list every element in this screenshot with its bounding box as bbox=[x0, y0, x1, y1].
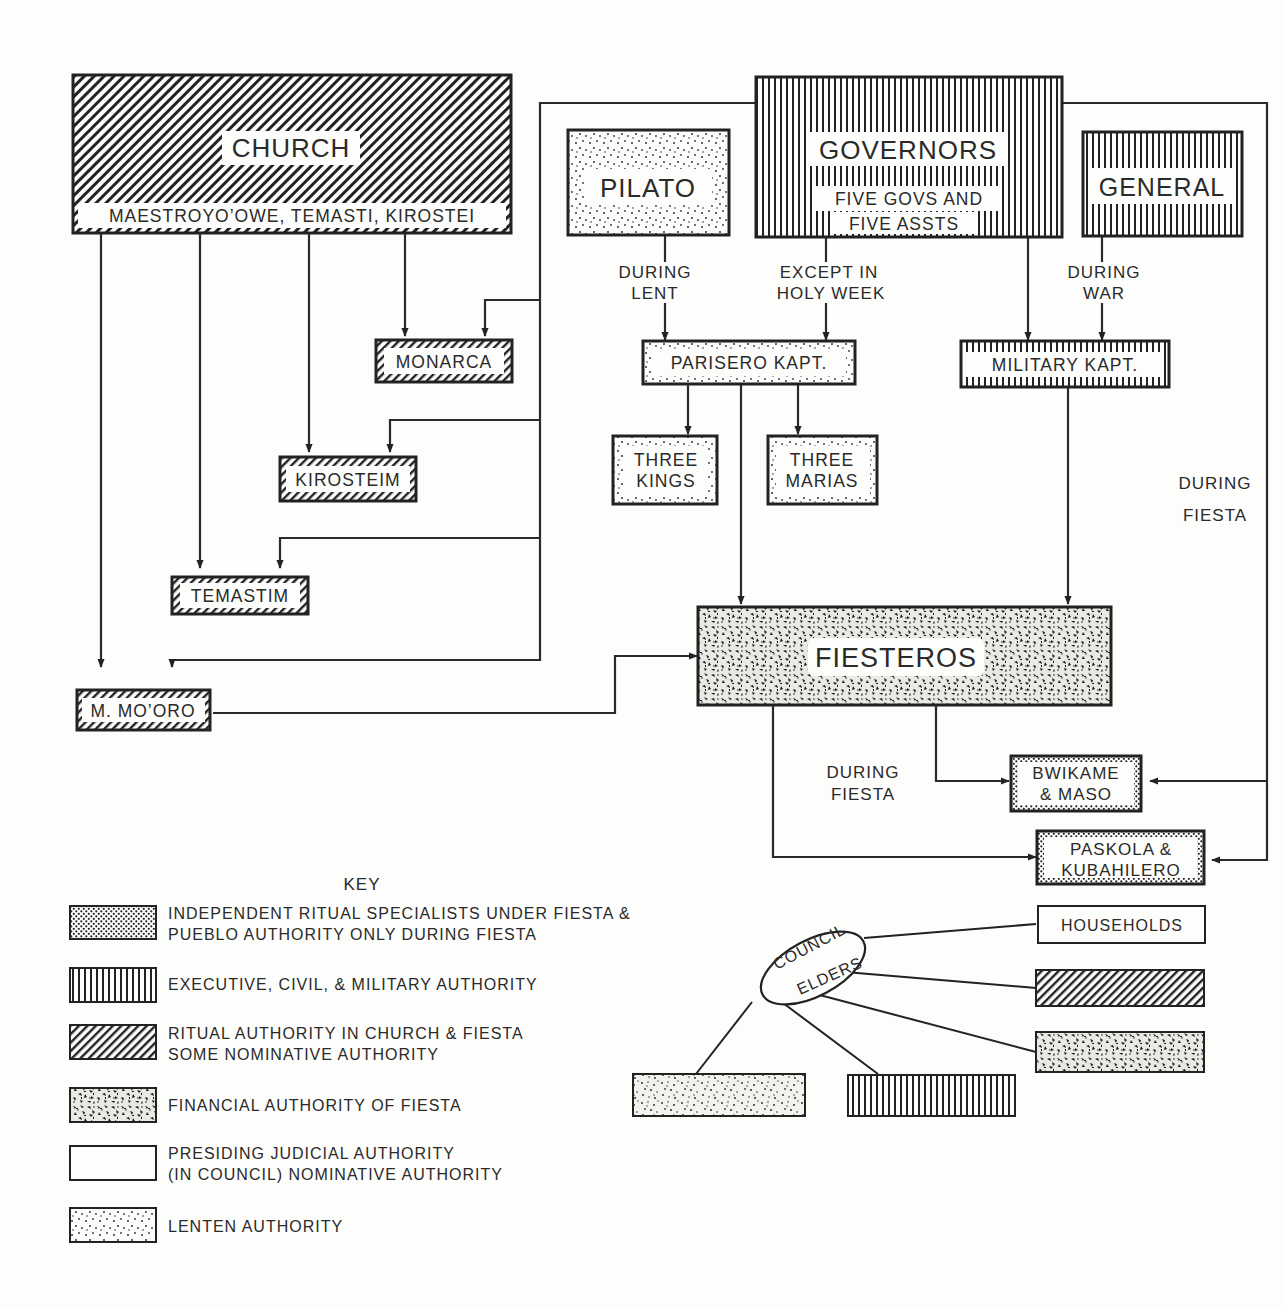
edge-label-during-fiesta-right: DURING FIESTA bbox=[1178, 474, 1251, 525]
governors-title: GOVERNORS bbox=[819, 135, 997, 165]
key-title: KEY bbox=[343, 875, 380, 894]
svg-text:FINANCIAL AUTHORITY OF FIESTA: FINANCIAL AUTHORITY OF FIESTA bbox=[168, 1097, 462, 1114]
svg-text:INDEPENDENT RITUAL SPECIALISTS: INDEPENDENT RITUAL SPECIALISTS UNDER FIE… bbox=[168, 905, 631, 922]
key-item-ritual-authority: RITUAL AUTHORITY IN CHURCH & FIESTA SOME… bbox=[70, 1025, 524, 1063]
edge-label-during-war: DURING WAR bbox=[1067, 263, 1140, 303]
svg-text:LENT: LENT bbox=[631, 284, 678, 303]
node-parisero-kapt[interactable]: PARISERO KAPT. bbox=[643, 341, 855, 384]
paskola-line2: KUBAHILERO bbox=[1061, 861, 1181, 880]
svg-text:DURING: DURING bbox=[1178, 474, 1251, 493]
svg-text:EXECUTIVE, CIVIL, & MILITARY A: EXECUTIVE, CIVIL, & MILITARY AUTHORITY bbox=[168, 976, 538, 993]
svg-text:RITUAL AUTHORITY IN CHURCH & F: RITUAL AUTHORITY IN CHURCH & FIESTA bbox=[168, 1025, 524, 1042]
council-financial-box[interactable] bbox=[1036, 1032, 1204, 1072]
svg-text:DURING: DURING bbox=[618, 263, 691, 282]
military-title: MILITARY KAPT. bbox=[992, 355, 1138, 375]
node-military-kapt[interactable]: MILITARY KAPT. bbox=[961, 341, 1169, 387]
key-item-lenten: LENTEN AUTHORITY bbox=[70, 1208, 343, 1242]
node-fiesteros[interactable]: FIESTEROS bbox=[698, 607, 1111, 705]
svg-text:FIESTA: FIESTA bbox=[1183, 506, 1247, 525]
svg-text:SOME NOMINATIVE AUTHORITY: SOME NOMINATIVE AUTHORITY bbox=[168, 1046, 439, 1063]
bwikame-line2: & MASO bbox=[1040, 785, 1112, 804]
households-box[interactable]: HOUSEHOLDS bbox=[1038, 906, 1205, 943]
svg-text:HOLY WEEK: HOLY WEEK bbox=[777, 284, 886, 303]
bwikame-line1: BWIKAME bbox=[1032, 764, 1119, 783]
svg-text:HOUSEHOLDS: HOUSEHOLDS bbox=[1061, 917, 1183, 934]
svg-text:DURING: DURING bbox=[1067, 263, 1140, 282]
node-paskola-kubahilero[interactable]: PASKOLA & KUBAHILERO bbox=[1037, 831, 1204, 884]
svg-text:WAR: WAR bbox=[1083, 284, 1125, 303]
m-mooro-title: M. MO’ORO bbox=[90, 701, 195, 721]
node-general[interactable]: GENERAL bbox=[1083, 132, 1242, 236]
monarca-title: MONARCA bbox=[396, 352, 492, 372]
church-subtitle: MAESTROYO’OWE, TEMASTI, KIROSTEI bbox=[109, 206, 475, 226]
key-item-executive: EXECUTIVE, CIVIL, & MILITARY AUTHORITY bbox=[70, 968, 538, 1002]
parisero-title: PARISERO KAPT. bbox=[671, 353, 828, 373]
svg-text:EXCEPT IN: EXCEPT IN bbox=[780, 263, 878, 282]
node-m-mooro[interactable]: M. MO’ORO bbox=[77, 690, 210, 730]
node-pilato[interactable]: PILATO bbox=[568, 130, 729, 235]
edge-label-except-holy-week: EXCEPT IN HOLY WEEK bbox=[777, 263, 886, 303]
svg-text:LENTEN AUTHORITY: LENTEN AUTHORITY bbox=[168, 1218, 343, 1235]
pilato-title: PILATO bbox=[600, 173, 696, 203]
council-lenten-box[interactable] bbox=[633, 1074, 805, 1116]
node-temastim[interactable]: TEMASTIM bbox=[172, 577, 308, 614]
council-executive-box[interactable] bbox=[848, 1075, 1015, 1116]
svg-text:PRESIDING JUDICIAL AUTHORITY: PRESIDING JUDICIAL AUTHORITY bbox=[168, 1145, 455, 1162]
key-item-independent-ritual: INDEPENDENT RITUAL SPECIALISTS UNDER FIE… bbox=[70, 905, 631, 943]
svg-text:PUEBLO AUTHORITY ONLY DURING F: PUEBLO AUTHORITY ONLY DURING FIESTA bbox=[168, 926, 537, 943]
key-item-financial: FINANCIAL AUTHORITY OF FIESTA bbox=[70, 1088, 462, 1122]
council-elders-group: COUNCIL ELDERS HOUSEHOLDS bbox=[633, 906, 1205, 1116]
key-legend: KEY INDEPENDENT RITUAL SPECIALISTS UNDER… bbox=[70, 875, 631, 1242]
temastim-title: TEMASTIM bbox=[191, 586, 289, 606]
kirosteim-title: KIROSTEIM bbox=[295, 470, 400, 490]
three-kings-line2: KINGS bbox=[636, 471, 695, 491]
governors-subtitle-2: FIVE ASSTS bbox=[849, 214, 959, 234]
svg-text:FIESTA: FIESTA bbox=[831, 785, 895, 804]
three-marias-line2: MARIAS bbox=[785, 471, 858, 491]
node-church[interactable]: CHURCH MAESTROYO’OWE, TEMASTI, KIROSTEI bbox=[73, 75, 511, 233]
general-title: GENERAL bbox=[1099, 173, 1225, 201]
svg-text:(IN COUNCIL) NOMINATIVE AUTHOR: (IN COUNCIL) NOMINATIVE AUTHORITY bbox=[168, 1166, 503, 1183]
node-monarca[interactable]: MONARCA bbox=[376, 340, 512, 382]
paskola-line1: PASKOLA & bbox=[1070, 840, 1172, 859]
three-marias-line1: THREE bbox=[790, 450, 854, 470]
key-item-judicial: PRESIDING JUDICIAL AUTHORITY (IN COUNCIL… bbox=[70, 1145, 503, 1183]
authority-diagram: CHURCH MAESTROYO’OWE, TEMASTI, KIROSTEI … bbox=[0, 0, 1285, 1307]
edge-label-during-fiesta-bottom: DURING FIESTA bbox=[826, 763, 899, 804]
node-three-kings[interactable]: THREE KINGS bbox=[613, 436, 717, 504]
governors-subtitle-1: FIVE GOVS AND bbox=[835, 189, 983, 209]
node-governors[interactable]: GOVERNORS FIVE GOVS AND FIVE ASSTS bbox=[756, 77, 1062, 237]
node-three-marias[interactable]: THREE MARIAS bbox=[768, 436, 877, 504]
node-bwikame-maso[interactable]: BWIKAME & MASO bbox=[1011, 756, 1141, 811]
edge-label-during-lent: DURING LENT bbox=[618, 263, 691, 303]
fiesteros-title: FIESTEROS bbox=[815, 643, 977, 673]
three-kings-line1: THREE bbox=[634, 450, 698, 470]
node-kirosteim[interactable]: KIROSTEIM bbox=[280, 457, 416, 501]
svg-text:DURING: DURING bbox=[826, 763, 899, 782]
church-title: CHURCH bbox=[232, 133, 351, 163]
council-ritual-box[interactable] bbox=[1036, 970, 1204, 1006]
